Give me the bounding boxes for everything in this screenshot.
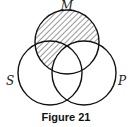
label-m: M xyxy=(60,0,74,13)
venn-diagram: M S P xyxy=(0,0,132,127)
label-s: S xyxy=(6,74,14,88)
figure-caption: Figure 21 xyxy=(0,111,132,123)
label-p: P xyxy=(117,74,127,88)
